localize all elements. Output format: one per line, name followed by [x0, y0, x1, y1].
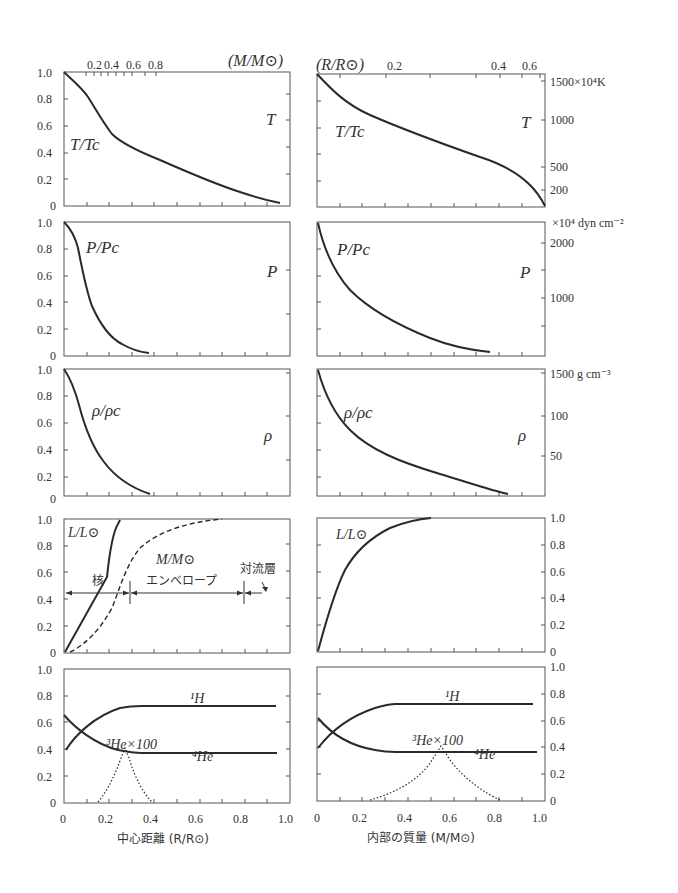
- svg-text:200: 200: [550, 183, 568, 197]
- svg-text:0.8: 0.8: [37, 389, 52, 403]
- he4-label: ⁴He: [474, 747, 495, 762]
- h1-label: ¹H: [445, 689, 460, 704]
- svg-text:0.6: 0.6: [550, 714, 565, 728]
- svg-text:0.4: 0.4: [37, 296, 52, 310]
- svg-text:0.6: 0.6: [442, 811, 457, 825]
- region-markers: 核 エンベロープ 対流層: [66, 562, 276, 604]
- svg-text:1.0: 1.0: [532, 811, 547, 825]
- h1-label: ¹H: [190, 691, 205, 706]
- svg-text:0.8: 0.8: [550, 687, 565, 701]
- convective-zone-label: 対流層: [240, 562, 276, 576]
- left-x-axis-title: 中心距離 (R/R⊙): [117, 831, 209, 846]
- rho-label: ρ: [263, 426, 272, 445]
- t-label: T: [266, 110, 277, 129]
- panel-left-temperature: 1.0 0.8 0.6 0.4 0.2 0 T/Tc T: [37, 66, 290, 213]
- top-tick: 0.4: [104, 58, 119, 72]
- top-left-mass-axis: 0.2 0.4 0.6 0.8 (M/M⊙): [87, 52, 283, 72]
- stellar-structure-figure: 0.2 0.4 0.6 0.8 (M/M⊙) (R/R⊙) 0.2 0.4 0.…: [0, 0, 678, 893]
- svg-text:500: 500: [550, 160, 568, 174]
- l-ratio-label: L/L⊙: [67, 525, 99, 540]
- svg-text:0.6: 0.6: [550, 565, 565, 579]
- svg-text:1000: 1000: [550, 113, 574, 127]
- svg-text:1500×10⁴K: 1500×10⁴K: [550, 75, 606, 89]
- panel-right-density: ρ/ρc ρ 1500 g cm⁻³ 100 50: [317, 367, 611, 496]
- svg-text:0.2: 0.2: [550, 767, 565, 781]
- top-tick: 0.6: [126, 58, 141, 72]
- panel-left-density: 1.0 0.8 0.6 0.4 0.2 0 ρ/ρc ρ: [37, 363, 290, 506]
- top-tick: 0.6: [522, 59, 537, 73]
- svg-text:0.2: 0.2: [37, 620, 52, 634]
- y-axis-labels: 1.0 0.8 0.6 0.4 0.2 0: [37, 663, 56, 810]
- he4-label: ⁴He: [192, 749, 213, 764]
- svg-text:1.0: 1.0: [550, 660, 565, 674]
- right-x-axis-title: 内部の質量 (M/M⊙): [367, 830, 475, 845]
- svg-text:0: 0: [550, 645, 556, 659]
- top-right-axis-label: (R/R⊙): [316, 56, 364, 74]
- right-temperature-axis: 1500×10⁴K 1000 500 200: [550, 75, 606, 197]
- top-right-radius-axis: (R/R⊙) 0.2 0.4 0.6: [316, 56, 537, 74]
- svg-text:0.4: 0.4: [37, 743, 52, 757]
- plot-frame: [64, 669, 290, 803]
- p-label: P: [519, 263, 530, 282]
- svg-text:1.0: 1.0: [278, 812, 293, 826]
- rho-ratio-label: ρ/ρc: [91, 401, 121, 420]
- svg-text:0.2: 0.2: [352, 811, 367, 825]
- svg-text:0.4: 0.4: [397, 811, 412, 825]
- svg-text:0: 0: [60, 812, 66, 826]
- y-axis-labels: 1.0 0.8 0.6 0.4 0.2 0: [37, 216, 56, 363]
- svg-text:1.0: 1.0: [550, 511, 565, 525]
- svg-text:0.4: 0.4: [37, 593, 52, 607]
- svg-text:0.8: 0.8: [550, 538, 565, 552]
- panel-right-temperature: T/Tc T 1500×10⁴K 1000 500 200: [317, 74, 606, 207]
- luminosity-curve: [318, 518, 431, 651]
- core-label: 核: [92, 574, 104, 588]
- svg-text:1.0: 1.0: [37, 363, 52, 377]
- svg-text:0.4: 0.4: [143, 812, 158, 826]
- right-fraction-axis: 1.0 0.8 0.6 0.4 0.2 0: [550, 511, 565, 659]
- svg-text:0.6: 0.6: [37, 716, 52, 730]
- p-ratio-label: P/Pc: [336, 240, 370, 259]
- svg-text:1000: 1000: [550, 291, 574, 305]
- svg-text:0.4: 0.4: [37, 443, 52, 457]
- svg-text:1.0: 1.0: [37, 663, 52, 677]
- svg-text:0.2: 0.2: [98, 812, 113, 826]
- svg-text:1500 g cm⁻³: 1500 g cm⁻³: [550, 367, 611, 381]
- svg-text:0.8: 0.8: [233, 812, 248, 826]
- right-density-axis: 1500 g cm⁻³ 100 50: [550, 367, 611, 463]
- t-ratio-label: T/Tc: [335, 122, 365, 141]
- svg-text:0.6: 0.6: [37, 416, 52, 430]
- t-ratio-label: T/Tc: [70, 135, 100, 154]
- svg-text:50: 50: [550, 449, 562, 463]
- l-ratio-label: L/L⊙: [335, 527, 367, 542]
- svg-text:1.0: 1.0: [37, 513, 52, 527]
- svg-text:1.0: 1.0: [37, 66, 52, 80]
- p-label: P: [266, 262, 277, 281]
- panel-left-composition: 1.0 0.8 0.6 0.4 0.2 0 ¹H ⁴He ³He×100 0 0…: [37, 663, 293, 846]
- envelope-label: エンベロープ: [146, 574, 217, 588]
- panel-right-pressure: P/Pc P ×10⁴ dyn cm⁻² 2000 1000: [317, 216, 624, 356]
- hydrogen-curve: [66, 706, 276, 750]
- y-axis-labels: 1.0 0.8 0.6 0.4 0.2 0: [37, 363, 56, 506]
- svg-text:0.6: 0.6: [37, 566, 52, 580]
- svg-text:0: 0: [50, 199, 56, 213]
- svg-text:0: 0: [550, 794, 556, 808]
- svg-text:0.4: 0.4: [550, 591, 565, 605]
- right-fraction-axis: 1.0 0.8 0.6 0.4 0.2 0: [550, 660, 565, 808]
- svg-text:0.4: 0.4: [37, 146, 52, 160]
- panel-right-composition: ¹H ⁴He ³He×100 1.0 0.8 0.6 0.4 0.2 0 0 0…: [314, 660, 565, 845]
- he3-label: ³He×100: [106, 737, 157, 752]
- t-label: T: [521, 113, 532, 132]
- plot-frame: [64, 369, 290, 496]
- rho-ratio-curve: [64, 369, 150, 494]
- svg-text:1.0: 1.0: [37, 216, 52, 230]
- rho-label: ρ: [517, 426, 526, 445]
- top-tick: 0.4: [491, 59, 506, 73]
- svg-text:0.4: 0.4: [550, 740, 565, 754]
- svg-text:0: 0: [314, 811, 320, 825]
- svg-text:0.8: 0.8: [37, 689, 52, 703]
- panel-right-luminosity: L/L⊙ 1.0 0.8 0.6 0.4 0.2 0: [317, 511, 565, 659]
- svg-text:0.6: 0.6: [188, 812, 203, 826]
- m-ratio-label: M/M⊙: [155, 552, 195, 567]
- svg-text:0.2: 0.2: [37, 173, 52, 187]
- svg-text:0.2: 0.2: [37, 323, 52, 337]
